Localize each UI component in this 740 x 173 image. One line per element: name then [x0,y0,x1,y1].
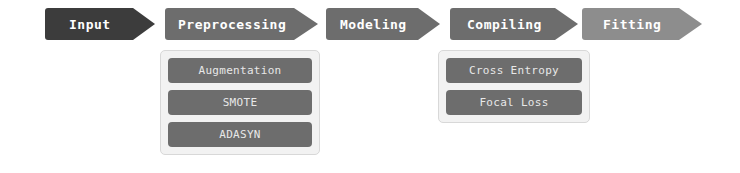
option-label: ADASYN [219,129,261,140]
stage-preprocessing[interactable]: Preprocessing [165,8,318,40]
option-label: Augmentation [198,65,281,76]
option-adasyn[interactable]: ADASYN [168,122,312,147]
stage-modeling[interactable]: Modeling [326,8,440,40]
stage-label-input: Input [69,18,111,31]
option-label: SMOTE [223,97,258,108]
panel-preprocessing-options: AugmentationSMOTEADASYN [160,50,320,155]
stage-label-modeling: Modeling [340,18,407,31]
stage-label-compiling: Compiling [467,18,542,31]
stage-fitting[interactable]: Fitting [582,8,702,40]
pipeline-diagram: InputPreprocessingModelingCompilingFitti… [0,0,740,173]
stage-label-fitting: Fitting [603,18,661,31]
panel-compiling-options: Cross EntropyFocal Loss [438,50,590,123]
option-label: Focal Loss [479,97,548,108]
stage-label-preprocessing: Preprocessing [178,18,286,31]
stage-input[interactable]: Input [45,8,155,40]
option-cross-entropy[interactable]: Cross Entropy [446,58,582,83]
option-smote[interactable]: SMOTE [168,90,312,115]
option-focal-loss[interactable]: Focal Loss [446,90,582,115]
stage-compiling[interactable]: Compiling [450,8,578,40]
option-augmentation[interactable]: Augmentation [168,58,312,83]
option-label: Cross Entropy [469,65,559,76]
